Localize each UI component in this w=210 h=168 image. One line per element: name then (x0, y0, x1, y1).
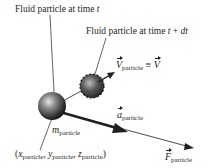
acceleration-subscript: particle (122, 114, 143, 122)
label-particle-at-t-dt-var2: dt (181, 26, 188, 36)
label-mass: mparticle (52, 125, 80, 135)
leader-line-particle-t-dt (95, 38, 106, 74)
label-particle-at-t-var: t (97, 4, 100, 14)
label-position: (xparticle, yparticle, zparticle) (15, 150, 106, 160)
position-y-subscript: particle (52, 153, 73, 161)
velocity-rhs: V (154, 60, 160, 70)
velocity-equiv: ≡ (143, 59, 154, 70)
particle-at-t-dt (80, 74, 104, 98)
force-subscript: particle (171, 156, 192, 164)
position-z-subscript: particle (82, 153, 103, 161)
particle-at-t (38, 92, 66, 120)
label-particle-at-t: Fluid particle at time t (15, 5, 99, 15)
position-x-subscript: particle (22, 153, 43, 161)
mass-subscript: particle (59, 129, 80, 137)
velocity-subscript: particle (122, 64, 143, 72)
label-acceleration: aparticle (117, 110, 143, 120)
label-particle-at-t-dt-op: + (170, 26, 180, 36)
label-force: Fparticle (165, 152, 192, 162)
leader-line-position (40, 118, 52, 150)
label-particle-at-t-dt-text: Fluid particle at time (86, 26, 168, 36)
label-velocity: Vparticle ≡ V (116, 60, 160, 70)
label-particle-at-t-text: Fluid particle at time (15, 4, 97, 14)
leader-line-particle-t (50, 15, 54, 92)
position-close: ) (103, 149, 106, 159)
label-particle-at-t-dt: Fluid particle at time t + dt (86, 27, 188, 37)
